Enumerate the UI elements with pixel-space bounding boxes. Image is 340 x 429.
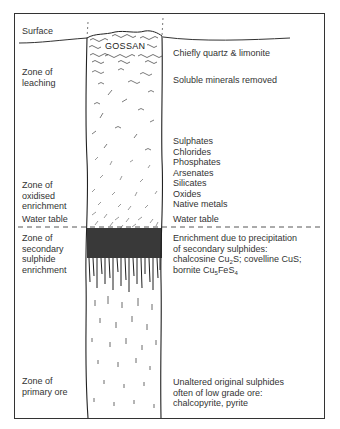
desc-primary: Unaltered original sulphides often of lo… xyxy=(173,377,284,409)
label-surface: Surface xyxy=(22,26,53,37)
desc-gossan: Chiefly quartz & limonite xyxy=(173,48,270,59)
gossan-label: GOSSAN xyxy=(103,41,147,51)
label-zone-leaching: Zone of leaching xyxy=(22,67,56,88)
label-water-table-left: Water table xyxy=(22,214,68,225)
label-water-table-right: Water table xyxy=(173,214,219,225)
secondary-enrichment-streaks xyxy=(89,258,160,292)
label-zone-secondary: Zone of secondary sulphide enrichment xyxy=(22,233,67,275)
primary-ore-texture xyxy=(92,296,156,408)
desc-leaching: Soluble minerals removed xyxy=(173,75,277,86)
desc-secondary: Enrichment due to precipitation of secon… xyxy=(173,233,301,275)
ground-surface-line xyxy=(19,37,290,43)
secondary-enrichment-band xyxy=(87,228,162,258)
leaching-zone-texture xyxy=(92,69,154,151)
desc-oxidised-list: Sulphates Chlorides Phosphates Arsenates… xyxy=(173,136,228,210)
label-zone-primary: Zone of primary ore xyxy=(22,376,68,397)
label-zone-oxidised: Zone of oxidised enrichment xyxy=(22,180,67,212)
oxidised-zone-texture xyxy=(92,157,158,229)
